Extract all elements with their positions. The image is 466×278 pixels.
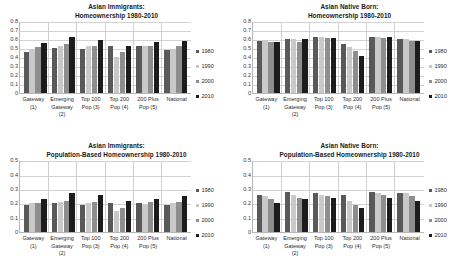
bar-1990 [58, 202, 63, 232]
bar-2010 [302, 199, 307, 232]
x-axis: Gateway(1)EmergingGateway(2)Top 100Pop (… [19, 235, 191, 258]
y-axis: 0.50.40.30.20.10 [2, 161, 18, 233]
legend-item-1990[interactable]: 1990 [196, 198, 232, 213]
chart-title-line-2: Homeownership 1980-2010 [0, 12, 233, 21]
legend: 1980199020002010 [429, 44, 465, 104]
bar-2000 [92, 46, 97, 94]
legend-swatch-icon [196, 204, 199, 207]
plot-area-wrapper: 0.50.40.30.20.10Gateway(1)EmergingGatewa… [0, 161, 233, 273]
legend-item-2000[interactable]: 2000 [196, 213, 232, 228]
x-axis-category-label: National [395, 235, 424, 258]
bar-1980 [257, 195, 262, 232]
y-axis-tick-label: 0.5 [243, 158, 251, 164]
y-axis-tick-label: 0.3 [243, 187, 251, 193]
x-axis-label-line-1: 200 Plus [367, 96, 396, 104]
x-axis-category-label: EmergingGateway(2) [281, 96, 310, 119]
bar-2000 [409, 196, 414, 232]
legend-item-2010[interactable]: 2010 [429, 89, 465, 104]
legend-label: 1990 [201, 203, 213, 209]
legend-label: 1990 [434, 203, 446, 209]
legend-swatch-icon [429, 65, 432, 68]
bar-2010 [415, 201, 420, 233]
legend-item-2000[interactable]: 2000 [429, 213, 465, 228]
x-axis: Gateway(1)EmergingGateway(2)Top 100Pop (… [252, 235, 424, 258]
bar-cluster [106, 161, 134, 232]
legend-item-2010[interactable]: 2010 [196, 89, 232, 104]
x-axis-label-line-2: (1) [252, 104, 281, 112]
bar-2010 [415, 41, 420, 93]
bar-clusters [253, 161, 424, 232]
bar-cluster [282, 22, 310, 93]
bar-2000 [268, 199, 273, 232]
legend-item-1980[interactable]: 1980 [429, 183, 465, 198]
y-axis-tick-label: 0.5 [243, 46, 251, 52]
x-axis-label-line-3: (2) [281, 250, 310, 258]
legend-item-2000[interactable]: 2000 [196, 74, 232, 89]
chart-panel-asian-native-born-population-based: Asian Native Born:Population-Based Homeo… [233, 139, 466, 278]
legend-label: 1980 [434, 49, 446, 55]
bar-1990 [86, 203, 91, 232]
bar-1990 [170, 203, 175, 232]
x-axis-label-line-1: Emerging [48, 235, 77, 243]
legend-item-2010[interactable]: 2010 [196, 228, 232, 243]
legend-item-2010[interactable]: 2010 [429, 228, 465, 243]
bar-cluster [310, 161, 338, 232]
x-axis-label-line-3: (2) [48, 250, 77, 258]
bar-1980 [108, 46, 113, 93]
x-axis: Gateway(1)EmergingGateway(2)Top 100Pop (… [252, 96, 424, 119]
legend-item-1980[interactable]: 1980 [196, 183, 232, 198]
legend-label: 1980 [201, 188, 213, 194]
y-axis: 0.80.70.60.50.40.30.20.10 [235, 22, 251, 94]
bar-2010 [126, 201, 131, 233]
y-axis-tick-label: 0.2 [10, 73, 18, 79]
legend-item-1980[interactable]: 1980 [196, 44, 232, 59]
bar-2010 [154, 199, 159, 232]
bar-1990 [170, 49, 175, 93]
chart-panel-asian-immigrants-homeownership: Asian Immigrants:Homeownership 1980-2010… [0, 0, 233, 139]
bar-2010 [302, 39, 307, 93]
bar-1990 [142, 205, 147, 232]
bar-1990 [262, 40, 267, 93]
y-axis-tick-label: 0.3 [243, 64, 251, 70]
bar-1980 [80, 205, 85, 232]
legend-swatch-icon [429, 204, 432, 207]
bar-1980 [108, 203, 113, 232]
bar-2010 [387, 37, 392, 93]
bar-clusters [20, 161, 191, 232]
bar-2000 [297, 42, 302, 93]
x-axis-label-line-2: Gateway [48, 104, 77, 112]
y-axis-tick-label: 0.2 [243, 73, 251, 79]
legend-swatch-icon [429, 50, 432, 53]
y-axis-tick-label: 0.8 [243, 19, 251, 25]
bar-cluster [134, 22, 162, 93]
bar-clusters [253, 22, 424, 93]
legend-item-1990[interactable]: 1990 [429, 59, 465, 74]
x-axis-label-line-1: National [162, 96, 191, 104]
legend-item-1980[interactable]: 1980 [429, 44, 465, 59]
x-axis-label-line-2: Pop (5) [367, 243, 396, 251]
bar-2010 [274, 203, 279, 232]
bar-1980 [80, 49, 85, 93]
y-axis-tick-label: 0.4 [10, 173, 18, 179]
x-axis-label-line-1: Top 100 [309, 235, 338, 243]
legend-item-1990[interactable]: 1990 [196, 59, 232, 74]
legend-swatch-icon [429, 219, 432, 222]
x-axis-label-line-1: Emerging [48, 96, 77, 104]
bar-2000 [381, 195, 386, 232]
legend-item-1990[interactable]: 1990 [429, 198, 465, 213]
legend-swatch-icon [196, 80, 199, 83]
chart-title-line-1: Asian Native Born: [233, 3, 466, 12]
bar-cluster [49, 22, 77, 93]
bar-2000 [120, 52, 125, 93]
x-axis-category-label: EmergingGateway(2) [281, 235, 310, 258]
bar-2010 [182, 196, 187, 232]
bar-2010 [359, 56, 364, 93]
x-axis-label-line-2: Pop (5) [134, 104, 163, 112]
legend-item-2000[interactable]: 2000 [429, 74, 465, 89]
x-axis-category-label: Top 200Pop (4) [338, 235, 367, 258]
bar-1990 [347, 47, 352, 93]
bar-2000 [353, 51, 358, 93]
bar-2000 [35, 203, 40, 232]
x-axis-label-line-2: Pop (4) [338, 243, 367, 251]
x-axis-label-line-3: (2) [48, 111, 77, 119]
